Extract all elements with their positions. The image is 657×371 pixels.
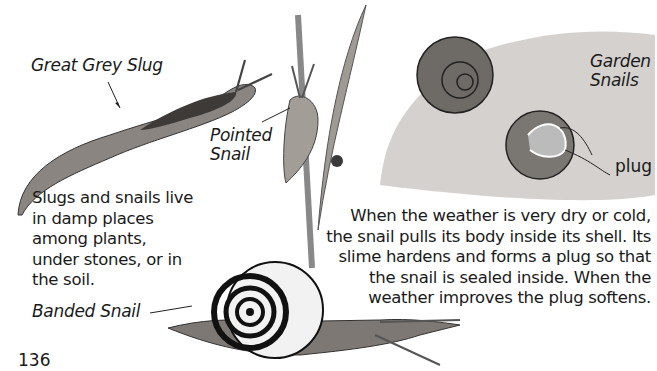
hibernation-line: the snail pulls its body inside its shel… — [326, 227, 651, 248]
habitat-line: among plants, — [32, 229, 193, 250]
habitat-line: in damp places — [32, 209, 193, 230]
habitat-line: Slugs and snails live — [32, 188, 193, 209]
label-plug: plug — [615, 156, 652, 176]
label-pointed-snail-line1: Pointed — [210, 126, 272, 145]
ladybird-illustration — [331, 155, 343, 167]
habitat-line: under stones, or in — [32, 250, 193, 271]
hibernation-paragraph: When the weather is very dry or cold, th… — [326, 206, 651, 309]
label-garden-snails-line2: Snails — [590, 71, 639, 90]
page-number: 136 — [18, 350, 50, 370]
habitat-line: the soil. — [32, 270, 193, 291]
hibernation-line: weather improves the plug softens. — [326, 288, 651, 309]
pointed-snail-illustration — [262, 64, 318, 183]
label-banded-snail: Banded Snail — [32, 302, 140, 321]
label-pointed-snail-line2: Snail — [210, 145, 250, 164]
hibernation-line: When the weather is very dry or cold, — [326, 206, 651, 227]
hibernation-line: the snail is sealed inside. When the — [326, 268, 651, 289]
label-garden-snails-line1: Garden — [590, 52, 651, 71]
label-great-grey-slug: Great Grey Slug — [31, 56, 163, 75]
habitat-paragraph: Slugs and snails live in damp places amo… — [32, 188, 193, 291]
hibernation-line: slime hardens and forms a plug so that — [326, 247, 651, 268]
